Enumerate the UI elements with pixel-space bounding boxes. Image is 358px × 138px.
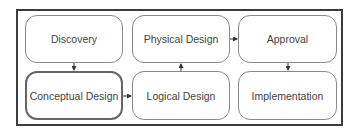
edges [0, 0, 358, 138]
